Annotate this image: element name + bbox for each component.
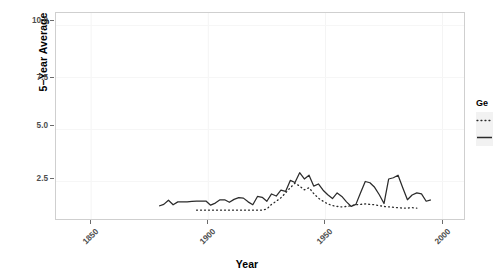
y-tick-label-10: 10.0 [14, 16, 48, 25]
y-tick-mark [50, 125, 54, 126]
x-tick-label-1950: 1950 [304, 227, 334, 257]
legend-key-solid-icon [476, 129, 493, 146]
series-line-dotted [197, 183, 417, 210]
legend: Ge [476, 98, 494, 146]
x-tick-mark [442, 220, 443, 224]
y-tick-label-5: 5.0 [14, 121, 48, 130]
x-tick-label-2000: 2000 [422, 227, 452, 257]
x-tick-mark [90, 220, 91, 224]
chart-container: 5−Year Average 10.0 7.5 5.0 2.5 [0, 0, 494, 279]
y-tick-label-2.5: 2.5 [14, 174, 48, 183]
y-tick-mark [50, 77, 54, 78]
x-tick-mark [207, 220, 208, 224]
legend-item-solid[interactable] [476, 129, 494, 146]
x-tick-label-1900: 1900 [187, 227, 217, 257]
legend-key-dotted-icon [476, 112, 493, 129]
y-tick-label-7.5: 7.5 [14, 73, 48, 82]
legend-title: Ge [476, 98, 494, 108]
plot-panel [55, 12, 465, 220]
legend-item-dotted[interactable] [476, 112, 494, 129]
plot-svg [56, 13, 465, 220]
x-tick-label-1850: 1850 [70, 227, 100, 257]
x-axis-title: Year [0, 258, 494, 270]
y-tick-mark [50, 178, 54, 179]
y-tick-mark [50, 20, 54, 21]
x-tick-mark [324, 220, 325, 224]
y-axis-ticks: 10.0 7.5 5.0 2.5 [14, 0, 48, 279]
series-line-solid [159, 173, 431, 207]
